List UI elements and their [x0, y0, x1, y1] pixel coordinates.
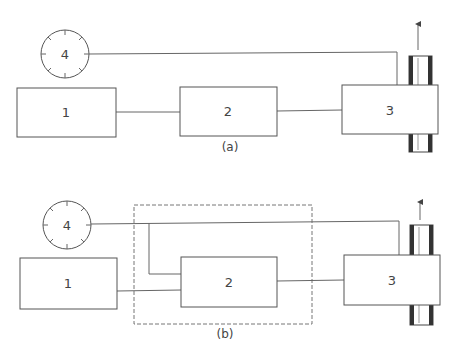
- block-2-a: 2: [180, 87, 277, 136]
- diagram-b: 4 1 2 3 (b): [20, 201, 440, 341]
- block-3-a: 3: [342, 85, 438, 134]
- caption-a: (a): [222, 140, 239, 154]
- svg-text:1: 1: [62, 105, 70, 120]
- branch-to-block-2: [149, 223, 181, 274]
- link-1-2-b: [117, 290, 181, 291]
- dial-gauge-b: 4: [43, 201, 91, 249]
- svg-text:2: 2: [225, 275, 233, 290]
- link-2-3-b: [277, 280, 344, 281]
- dial-label-a: 4: [61, 47, 69, 62]
- dial-gauge-a: 4: [41, 30, 89, 78]
- svg-text:3: 3: [388, 273, 396, 288]
- block-2-b: 2: [181, 257, 277, 307]
- block-3-b: 3: [344, 255, 440, 305]
- link-2-3-a: [277, 110, 342, 111]
- block-1-a: 1: [17, 88, 116, 137]
- svg-text:3: 3: [386, 103, 394, 118]
- caption-b: (b): [217, 327, 234, 341]
- feedback-line-b: [91, 221, 399, 255]
- feedback-line-a: [89, 52, 397, 85]
- svg-text:2: 2: [224, 104, 232, 119]
- svg-text:1: 1: [64, 276, 72, 291]
- block-1-b: 1: [20, 258, 117, 309]
- dial-label-b: 4: [63, 218, 71, 233]
- block-diagram: 4 1 2 3 (a): [0, 0, 457, 351]
- diagram-a: 4 1 2 3 (a): [17, 24, 438, 154]
